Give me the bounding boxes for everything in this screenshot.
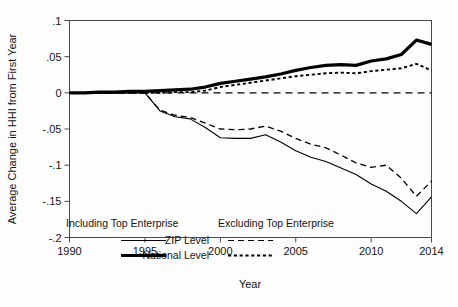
y-tick-label: 0 xyxy=(55,87,61,99)
hhi-change-line-chart: .1.050-.05-.1-.15-.2 1990199520002005201… xyxy=(0,0,458,307)
x-tick-label: 2014 xyxy=(419,245,443,257)
legend-header-including: Including Top Enterprise xyxy=(66,217,179,229)
y-tick-label: -.15 xyxy=(43,195,62,207)
y-tick-label: -.05 xyxy=(43,123,62,135)
x-tick-label: 2005 xyxy=(284,245,308,257)
legend-label-zip-level: ZIP Level xyxy=(165,234,209,246)
x-tick-label: 1990 xyxy=(57,245,81,257)
y-axis-title: Average Change in HHI from First Year xyxy=(6,33,18,224)
x-tick-label: 2010 xyxy=(359,245,383,257)
y-tick-label: -.1 xyxy=(49,159,62,171)
y-tick-label: .1 xyxy=(52,15,61,27)
x-axis-title: Year xyxy=(239,278,262,290)
chart-figure: .1.050-.05-.1-.15-.2 1990199520002005201… xyxy=(0,0,458,307)
y-tick-label: -.2 xyxy=(49,232,62,244)
legend-header-excluding: Excluding Top Enterprise xyxy=(218,217,334,229)
chart-background xyxy=(0,0,458,307)
y-tick-label: .05 xyxy=(46,51,61,63)
